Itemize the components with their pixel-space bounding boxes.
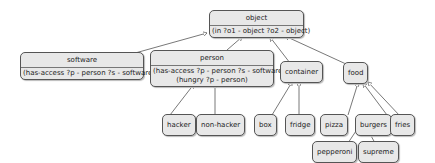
node-person-title: person: [151, 51, 273, 65]
node-software-title: software: [21, 53, 143, 67]
node-software[interactable]: software (has-access ?p - person ?s - so…: [20, 52, 144, 80]
node-container[interactable]: container: [280, 61, 323, 83]
node-burgers[interactable]: burgers: [355, 114, 392, 136]
node-supreme[interactable]: supreme: [358, 141, 399, 163]
node-non-hacker[interactable]: non-hacker: [196, 114, 245, 136]
node-food[interactable]: food: [343, 62, 368, 84]
node-software-attr: (has-access ?p - person ?s - software): [21, 67, 143, 79]
node-pizza[interactable]: pizza: [320, 114, 348, 136]
node-person-attrs: (has-access ?p - person ?s - software) (…: [151, 65, 273, 86]
node-box[interactable]: box: [254, 114, 277, 136]
node-person[interactable]: person (has-access ?p - person ?s - soft…: [150, 50, 274, 87]
node-pepperoni[interactable]: pepperoni: [312, 141, 357, 163]
node-fridge[interactable]: fridge: [285, 114, 315, 136]
node-object-title: object: [210, 11, 303, 25]
node-fries[interactable]: fries: [390, 114, 415, 136]
node-hacker[interactable]: hacker: [162, 114, 196, 136]
node-person-attr-2: (hungry ?p - person): [153, 76, 271, 85]
node-object[interactable]: object (in ?o1 - object ?o2 - object): [209, 10, 304, 38]
node-object-attr: (in ?o1 - object ?o2 - object): [210, 25, 303, 37]
node-person-attr-1: (has-access ?p - person ?s - software): [153, 67, 271, 76]
